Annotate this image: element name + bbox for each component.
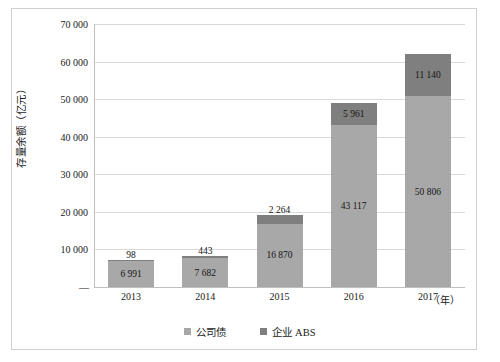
bar-segment-corporate-bond[interactable]: 6 991 xyxy=(108,261,154,287)
y-axis-tick-label: 50 000 xyxy=(61,94,89,105)
bar-group[interactable]: 2 26416 8702015 xyxy=(257,215,303,287)
bar-segment-corporate-bond[interactable]: 50 806 xyxy=(405,96,451,287)
x-axis-tick-label: 2016 xyxy=(317,291,391,302)
x-axis-tick-label: 2015 xyxy=(243,291,317,302)
bar-value-label: 2 264 xyxy=(257,205,303,215)
legend-label: 公司债 xyxy=(196,324,226,339)
bar-value-label: 50 806 xyxy=(405,187,451,197)
y-axis-line xyxy=(94,24,95,288)
bar-value-label: 443 xyxy=(182,246,228,256)
legend-swatch-icon xyxy=(184,328,191,335)
bar-segment-abs[interactable]: 2 264 xyxy=(257,215,303,224)
y-axis-title: 存量余额（亿元） xyxy=(13,66,28,186)
y-axis-tick-label: 70 000 xyxy=(61,19,89,30)
legend-item[interactable]: 企业 ABS xyxy=(260,324,315,339)
bar-segment-corporate-bond[interactable]: 43 117 xyxy=(331,125,377,287)
x-axis-tick-label: 2014 xyxy=(168,291,242,302)
bar-value-label: 16 870 xyxy=(257,250,303,260)
bar-value-label: 5 961 xyxy=(331,109,377,119)
chart-figure: 存量余额（亿元） 70 00060 00050 00040 00030 0002… xyxy=(0,0,500,362)
chart-legend: 公司债企业 ABS xyxy=(0,324,500,339)
bar-group[interactable]: 986 9912013 xyxy=(108,260,154,287)
bar-value-label: 6 991 xyxy=(108,269,154,279)
x-axis-line xyxy=(94,287,465,288)
legend-swatch-icon xyxy=(260,328,267,335)
legend-item[interactable]: 公司债 xyxy=(184,324,226,339)
bar-segment-corporate-bond[interactable]: 16 870 xyxy=(257,224,303,287)
plot-area: 70 00060 00050 00040 00030 00020 00010 0… xyxy=(94,24,465,288)
y-axis-tick-label: 10 000 xyxy=(61,244,89,255)
y-axis-tick-label: 60 000 xyxy=(61,56,89,67)
bar-value-label: 11 140 xyxy=(405,70,451,80)
gridline xyxy=(94,24,465,25)
y-axis-tick-label: 40 000 xyxy=(61,131,89,142)
bar-group[interactable]: 4437 6822014 xyxy=(182,256,228,287)
bar-segment-abs[interactable]: 5 961 xyxy=(331,103,377,125)
bar-group[interactable]: 5 96143 1172016 xyxy=(331,103,377,287)
bar-value-label: 98 xyxy=(108,250,154,260)
x-axis-unit-label: （年） xyxy=(430,292,460,307)
y-axis-tick-label: — xyxy=(79,282,88,293)
bar-segment-corporate-bond[interactable]: 7 682 xyxy=(182,258,228,287)
bar-value-label: 43 117 xyxy=(331,201,377,211)
bar-group[interactable]: 11 14050 8062017 xyxy=(405,54,451,287)
legend-label: 企业 ABS xyxy=(272,324,315,339)
y-axis-tick-label: 20 000 xyxy=(61,206,89,217)
y-axis-tick-label: 30 000 xyxy=(61,169,89,180)
bar-value-label: 7 682 xyxy=(182,268,228,278)
x-axis-tick-label: 2013 xyxy=(94,291,168,302)
bar-segment-abs[interactable]: 11 140 xyxy=(405,54,451,96)
